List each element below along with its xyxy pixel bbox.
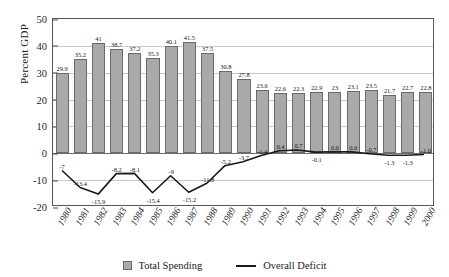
x-axis-tick-label: 1991 (256, 206, 274, 227)
y-axis-label: Percent GDP (18, 0, 30, 114)
x-axis-tick-label: 1992 (274, 206, 292, 227)
legend-item[interactable]: Total Spending (123, 260, 203, 271)
x-axis-tick-label: 1995 (328, 206, 346, 227)
x-axis-tick-label: 1984 (128, 206, 146, 227)
deficit-value-label: -8.1 (130, 166, 140, 173)
deficit-value-label: -8.2 (112, 166, 122, 173)
deficit-value-label: -15.4 (146, 197, 159, 204)
legend-label: Total Spending (139, 260, 203, 271)
legend-box-swatch (123, 261, 132, 270)
x-axis-tick-label: 1980 (56, 206, 74, 227)
deficit-value-label: -1.3 (384, 159, 394, 166)
legend-label: Overall Deficit (263, 260, 326, 271)
deficit-value-label: -13.4 (74, 180, 87, 187)
deficit-value-label: 0.4 (276, 143, 284, 150)
x-axis-tick-label: 1997 (365, 206, 383, 227)
deficit-value-label: -15.9 (92, 198, 105, 205)
deficit-value-label: -15.2 (183, 196, 196, 203)
deficit-value-label: -0.1 (312, 156, 322, 163)
deficit-value-label: 0.0 (349, 144, 357, 151)
x-axis-tick-label: 1986 (165, 206, 183, 227)
deficit-value-label: 0.0 (331, 144, 339, 151)
x-axis-tick-label: 1987 (183, 206, 201, 227)
deficit-value-label: -1.0 (421, 147, 431, 154)
x-axis-tick-label: 1998 (383, 206, 401, 227)
y-axis-tick-label: -10 (33, 175, 53, 186)
deficit-value-label: -1.4 (257, 148, 267, 155)
x-axis-tick-label: 1983 (110, 206, 128, 227)
deficit-value-label: -9 (169, 168, 174, 175)
y-axis-tick-label: 10 (37, 121, 54, 132)
x-axis-tick-label: 1989 (219, 206, 237, 227)
x-axis-tick-label: 1985 (147, 206, 165, 227)
x-axis-tick-label: 1990 (238, 206, 256, 227)
x-axis-tick-label: 1994 (310, 206, 328, 227)
deficit-value-label: -0.7 (366, 146, 376, 153)
x-axis-tick-label: 1982 (92, 206, 110, 227)
deficit-value-label: -1.3 (403, 159, 413, 166)
x-axis-tick-label: 1981 (74, 206, 92, 227)
y-axis-tick-label: 20 (37, 94, 54, 105)
deficit-value-label: -7 (59, 163, 64, 170)
y-axis-tick-label: 0 (42, 148, 53, 159)
y-axis-tick-label: 40 (37, 40, 54, 51)
x-axis-tick-label: 1988 (201, 206, 219, 227)
line-series-overall-deficit: -7-13.4-15.9-8.2-8.1-15.4-9-15.2-11.8-5.… (53, 19, 433, 205)
chart-container: Percent GDP 50403020100-10-20 29.935.241… (0, 0, 449, 277)
deficit-value-label: -3.7 (239, 154, 249, 161)
x-axis-tick-label: 2000 (419, 206, 437, 227)
x-axis-tick-label: 1996 (347, 206, 365, 227)
deficit-value-label: -5.2 (221, 158, 231, 165)
y-axis-tick-label: -20 (33, 202, 53, 213)
x-axis-ticks: 1980198119821983198419851986198719881989… (52, 206, 434, 252)
chart-legend: Total SpendingOverall Deficit (0, 260, 449, 271)
x-axis-tick-label: 1999 (401, 206, 419, 227)
deficit-value-label: -11.8 (201, 176, 214, 183)
deficit-value-label: 0.7 (295, 142, 303, 149)
x-axis-tick-label: 1993 (292, 206, 310, 227)
legend-line-swatch (236, 265, 256, 267)
plot-area: 50403020100-10-20 29.935.24138.737.235.3… (52, 18, 434, 206)
legend-item[interactable]: Overall Deficit (236, 260, 326, 271)
y-axis-tick-label: 50 (37, 14, 54, 25)
y-axis-tick-label: 30 (37, 67, 54, 78)
